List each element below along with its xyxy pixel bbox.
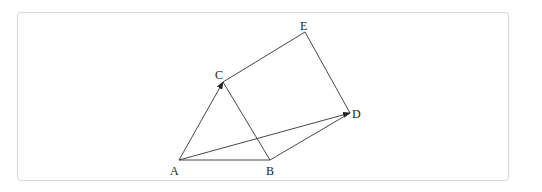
segment-bc: [223, 82, 270, 160]
segment-ce: [223, 32, 305, 82]
point-label-a: A: [170, 164, 179, 178]
segment-ac: [179, 82, 223, 160]
segments-group: [179, 32, 350, 160]
geometry-diagram: A B C D E: [0, 0, 542, 192]
segment-bd: [270, 113, 350, 160]
point-label-c: C: [215, 68, 223, 82]
segment-ad: [179, 113, 350, 160]
point-label-b: B: [266, 164, 274, 178]
segment-ed: [305, 32, 350, 113]
point-label-d: D: [352, 107, 361, 121]
point-label-e: E: [300, 19, 307, 33]
